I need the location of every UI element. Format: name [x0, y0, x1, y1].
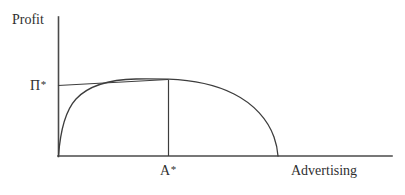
- x-axis-label: Advertising: [291, 164, 357, 178]
- optimal-advertising-symbol: A: [160, 163, 170, 178]
- optimal-advertising-star-mark: *: [171, 163, 177, 175]
- optimal-advertising-label: A*: [160, 164, 176, 178]
- optimal-profit-symbol: Π: [30, 78, 40, 93]
- optimal-profit-star-mark: *: [41, 78, 47, 90]
- y-axis-label: Profit: [12, 13, 44, 27]
- optimal-profit-label: Π*: [30, 79, 46, 93]
- optimal-profit-reference-line: [58, 80, 168, 86]
